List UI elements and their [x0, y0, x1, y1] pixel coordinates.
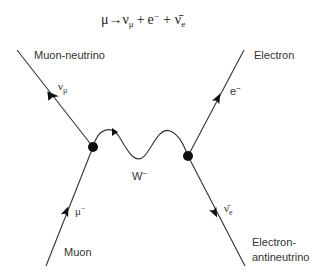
eq-muon: μ [101, 12, 109, 27]
eq-plus-2: + [163, 12, 171, 27]
electron-antineutrino-label-line2: antineutrino [252, 251, 310, 263]
left-vertex [88, 142, 98, 152]
muon-neutrino-line [17, 50, 93, 147]
electron-antineutrino-arrow-icon [209, 207, 221, 220]
feynman-diagram: μ→νμ+e−+ν̄e Muon-neutrino νμ Muon μ− W− … [0, 0, 328, 276]
w-boson-label: W− [132, 169, 147, 182]
decay-equation: μ→νμ+e−+ν̄e [101, 11, 185, 29]
muon-label: Muon [64, 246, 92, 258]
eq-muon-neutrino-sub: μ [129, 19, 134, 29]
electron-symbol: e− [230, 84, 241, 97]
electron-antineutrino-label-line1: Electron- [252, 236, 296, 248]
eq-antineutrino-sub: e [181, 19, 185, 29]
electron-arrow-icon [212, 92, 224, 105]
right-vertex [183, 151, 193, 161]
w-boson-line [93, 130, 188, 159]
eq-plus-1: + [137, 12, 145, 27]
w-boson-arrow-icon [112, 128, 118, 136]
eq-electron-sup: − [154, 11, 159, 21]
electron-line [188, 50, 244, 156]
eq-arrow: → [109, 12, 123, 27]
muon-symbol: μ− [75, 204, 86, 217]
electron-antineutrino-symbol: ν̄e [224, 202, 233, 217]
electron-label: Electron [254, 49, 294, 61]
muon-neutrino-symbol: νμ [58, 80, 67, 95]
muon-neutrino-label: Muon-neutrino [34, 49, 105, 61]
